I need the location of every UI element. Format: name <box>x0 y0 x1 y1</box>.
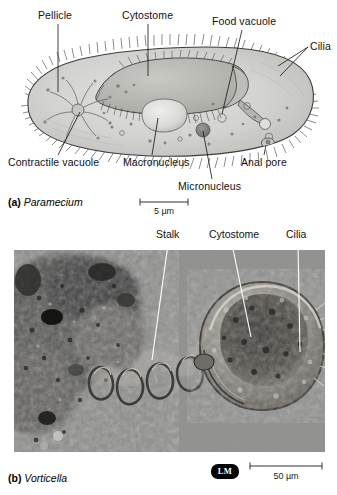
label-micronucleus: Micronucleus <box>178 181 241 192</box>
vorticella-micrograph <box>14 250 325 452</box>
label-pellicle: Pellicle <box>38 10 72 21</box>
micrograph-image <box>14 250 325 452</box>
panel-a-caption: (a) Paramecium <box>8 196 83 208</box>
leader-food-vacuole <box>222 30 242 114</box>
leader-macronucleus <box>152 118 158 155</box>
panel-a-caption-name: Paramecium <box>24 196 83 208</box>
label-cilia: Cilia <box>310 41 331 52</box>
macronucleus <box>142 99 187 132</box>
label-food-vacuole: Food vacuole <box>212 16 276 27</box>
cytoplasm-granules <box>103 84 289 146</box>
leader-micronucleus <box>203 131 212 179</box>
leader-cilia-2 <box>280 47 308 76</box>
panel-b-caption-marker: (b) <box>8 472 21 484</box>
label-cytostome: Cytostome <box>122 10 173 21</box>
label-stalk: Stalk <box>156 229 179 240</box>
leader-cilia-1 <box>278 47 308 66</box>
cytostome-opening <box>224 66 248 108</box>
label-macronucleus: Macronucleus <box>123 157 190 168</box>
gullet-tube <box>238 100 263 123</box>
panel-b-scale-bar-label: 50 µm <box>250 471 322 481</box>
paramecium-body <box>28 47 314 156</box>
panel-b-caption: (b) Vorticella <box>8 472 67 484</box>
pellicle-texture <box>44 62 304 146</box>
forming-food-vacuole <box>260 119 271 130</box>
label-cilia-micrograph: Cilia <box>286 229 306 240</box>
panel-a-scale-bar-label: 5 µm <box>140 206 188 216</box>
lm-badge: LM <box>211 464 239 479</box>
contractile-vacuole <box>43 76 111 142</box>
leader-anal-pore <box>264 145 266 155</box>
figure-ciliate-protists: Pellicle Cytostome Food vacuole Cilia Co… <box>0 0 337 495</box>
oral-groove-cilia <box>96 50 232 124</box>
panel-b-caption-name: Vorticella <box>24 472 67 484</box>
cilia-fringe <box>21 34 319 169</box>
label-cytostome-micrograph: Cytostome <box>209 229 259 240</box>
label-anal-pore: Anal pore <box>241 157 287 168</box>
leader-contractile-vacuole <box>58 112 80 155</box>
label-contractile-vacuole: Contractile vacuole <box>8 157 99 168</box>
micronucleus <box>196 123 210 137</box>
oral-groove <box>96 58 247 115</box>
panel-a-caption-marker: (a) <box>8 196 21 208</box>
